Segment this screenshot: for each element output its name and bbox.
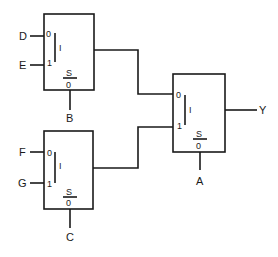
label-b: B (66, 112, 73, 124)
label-a: A (196, 175, 204, 187)
mux-top-select-label: S (66, 68, 72, 78)
mux-output-select-label: S (196, 129, 202, 139)
label-g: G (18, 177, 27, 189)
mux-top-bar-glyph: I (59, 43, 62, 53)
wire-top-to-out (94, 50, 173, 94)
mux-bottom-port-0: 0 (47, 148, 52, 158)
label-y: Y (259, 104, 267, 116)
mux-output-select-sub: 0 (196, 141, 201, 151)
label-e: E (19, 59, 26, 71)
mux-output-port-1: 1 (177, 121, 182, 131)
label-c: C (66, 231, 74, 243)
label-d: D (19, 30, 27, 42)
mux-diagram: D E 0 1 I S 0 B F G 0 1 I S 0 C 0 1 I S … (0, 0, 278, 257)
mux-bottom-select-label: S (66, 187, 72, 197)
mux-output-bar-glyph: I (189, 105, 192, 115)
wire-bottom-to-out (93, 127, 173, 168)
label-f: F (19, 146, 26, 158)
mux-bottom-select-sub: 0 (66, 198, 71, 208)
mux-bottom-port-1: 1 (47, 179, 52, 189)
mux-bottom-bar-glyph: I (59, 161, 62, 171)
mux-top-port-0: 0 (46, 29, 51, 39)
mux-top-port-1: 1 (47, 58, 52, 68)
mux-output-port-0: 0 (176, 90, 181, 100)
mux-top-select-sub: 0 (66, 80, 71, 90)
